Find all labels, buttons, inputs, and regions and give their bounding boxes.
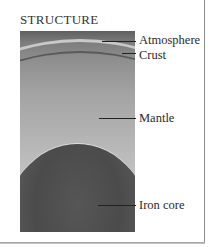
frame-bottom-border xyxy=(0,242,205,244)
atmosphere-label: Atmosphere xyxy=(139,33,200,48)
iron-core-layer xyxy=(20,144,135,232)
mantle-leader-line xyxy=(99,118,136,119)
iron-core-leader-line xyxy=(98,205,136,206)
mantle-label: Mantle xyxy=(139,111,174,126)
planet-cross-section xyxy=(20,31,135,232)
crust-label: Crust xyxy=(139,48,166,63)
frame-right-border xyxy=(204,0,205,244)
figure-title: STRUCTURE xyxy=(20,12,99,28)
atmosphere-leader-line xyxy=(102,41,136,42)
crust-leader-line xyxy=(122,53,136,54)
iron-core-label: Iron core xyxy=(139,198,184,213)
